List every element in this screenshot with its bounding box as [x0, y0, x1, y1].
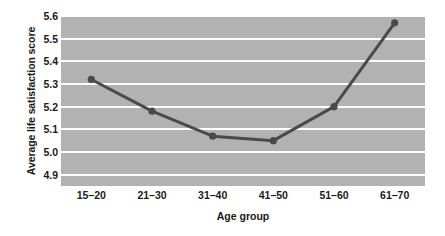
y-axis-tick-label: 4.9 [34, 169, 58, 181]
x-axis-tick-label: 41–50 [238, 189, 308, 201]
x-axis-tick-label: 61–70 [360, 189, 430, 201]
y-axis-tick-label: 5.6 [34, 10, 58, 22]
y-axis-tick-label: 5.5 [34, 33, 58, 45]
data-point [88, 76, 95, 83]
series-line [91, 23, 394, 141]
x-axis-tick-label: 15–20 [56, 189, 126, 201]
x-axis-tick-label: 21–30 [117, 189, 187, 201]
data-point [270, 137, 277, 144]
x-axis-tick-labels: 15–2021–3031–4041–5051–6061–70 [61, 189, 425, 205]
data-point [330, 103, 337, 110]
x-axis-title: Age group [61, 210, 425, 222]
data-point [209, 133, 216, 140]
line-chart: Average life satisfaction score 5.65.55.… [0, 0, 445, 236]
x-axis-tick-label: 51–60 [299, 189, 369, 201]
y-axis-tick-label: 5.2 [34, 101, 58, 113]
data-point [391, 19, 398, 26]
y-axis-tick-label: 5.4 [34, 55, 58, 67]
y-axis-tick-labels: 5.65.55.45.35.25.15.04.9 [34, 16, 58, 165]
data-point [148, 108, 155, 115]
y-axis-tick-label: 5.0 [34, 146, 58, 158]
x-axis-tick-label: 31–40 [178, 189, 248, 201]
y-axis-tick-label: 5.1 [34, 123, 58, 135]
series-line-group [61, 16, 425, 186]
plot-area [61, 16, 425, 186]
y-axis-tick-label: 5.3 [34, 78, 58, 90]
